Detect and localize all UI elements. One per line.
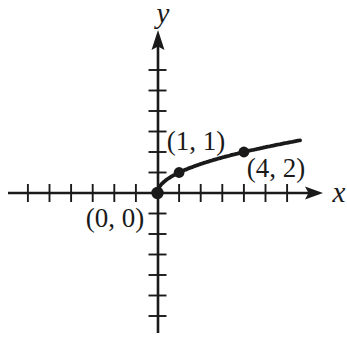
- graph-canvas: (0, 0) (1, 1) (4, 2) x y: [0, 0, 347, 351]
- point-label-origin: (0, 0): [86, 203, 144, 233]
- data-point-1-1: [174, 167, 185, 178]
- point-label-1-1: (1, 1): [167, 126, 225, 156]
- x-axis: [8, 184, 323, 202]
- y-axis-label: y: [154, 0, 170, 29]
- sqrt-function-figure: (0, 0) (1, 1) (4, 2) x y: [0, 0, 347, 351]
- point-label-4-2: (4, 2): [247, 153, 305, 183]
- data-point-origin: [151, 187, 163, 199]
- x-axis-label: x: [332, 176, 346, 208]
